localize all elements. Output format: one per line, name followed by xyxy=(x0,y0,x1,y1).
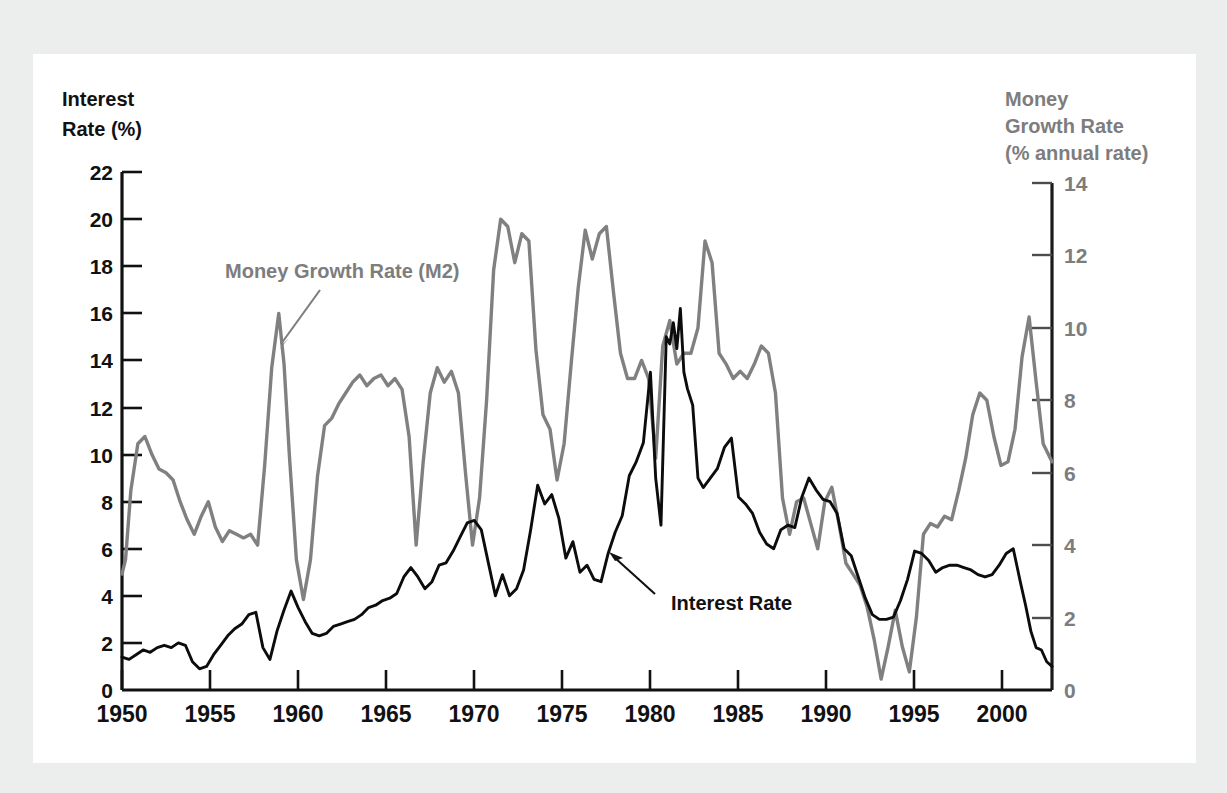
series-money-growth-rate xyxy=(122,219,1052,679)
xtick-1990: 1990 xyxy=(800,701,851,727)
chart-svg: Interest Rate (%) Money Growth Rate (% a… xyxy=(0,0,1227,793)
xtick-1980: 1980 xyxy=(624,701,675,727)
ytick-left-20: 20 xyxy=(90,208,113,231)
ytick-right-10: 10 xyxy=(1064,317,1087,340)
left-axis-tick-labels: 22 20 18 16 14 12 10 8 6 4 2 0 xyxy=(90,161,114,702)
ytick-right-12: 12 xyxy=(1064,244,1087,267)
ytick-left-0: 0 xyxy=(101,679,113,702)
ytick-left-14: 14 xyxy=(90,349,114,372)
ytick-right-0: 0 xyxy=(1064,679,1076,702)
x-axis-tick-labels: 1950 1955 1960 1965 1970 1975 1980 1985 … xyxy=(96,701,1027,727)
left-axis-title-line1: Interest xyxy=(62,88,135,110)
ytick-right-14: 14 xyxy=(1064,172,1088,195)
right-axis-title-line3: (% annual rate) xyxy=(1005,142,1148,164)
xtick-1975: 1975 xyxy=(536,701,587,727)
ytick-right-2: 2 xyxy=(1064,607,1076,630)
right-axis-title-line1: Money xyxy=(1005,88,1069,110)
annotation-interest-rate-label: Interest Rate xyxy=(671,592,792,614)
left-axis-ticks xyxy=(122,172,142,643)
xtick-1960: 1960 xyxy=(272,701,323,727)
ytick-left-22: 22 xyxy=(90,161,113,184)
ytick-left-18: 18 xyxy=(90,255,114,278)
xtick-1995: 1995 xyxy=(888,701,939,727)
figure-container: Interest Rate (%) Money Growth Rate (% a… xyxy=(0,0,1227,793)
xtick-1950: 1950 xyxy=(96,701,147,727)
ytick-right-8: 8 xyxy=(1064,389,1076,412)
xtick-2000: 2000 xyxy=(976,701,1027,727)
right-axis-title-line2: Growth Rate xyxy=(1005,115,1124,137)
right-axis-ticks xyxy=(1032,183,1052,618)
ytick-left-16: 16 xyxy=(90,302,113,325)
annotation-money-arrow-line xyxy=(281,290,320,344)
xtick-1970: 1970 xyxy=(448,701,499,727)
left-axis-title-line2: Rate (%) xyxy=(62,118,142,140)
annotation-interest-arrow-head xyxy=(609,552,623,561)
ytick-right-6: 6 xyxy=(1064,462,1076,485)
ytick-left-12: 12 xyxy=(90,397,113,420)
x-axis-ticks xyxy=(122,670,1002,690)
xtick-1965: 1965 xyxy=(360,701,411,727)
ytick-left-6: 6 xyxy=(101,538,113,561)
xtick-1985: 1985 xyxy=(712,701,763,727)
ytick-left-8: 8 xyxy=(101,491,113,514)
annotation-money-growth-label: Money Growth Rate (M2) xyxy=(225,260,459,282)
ytick-left-10: 10 xyxy=(90,444,113,467)
ytick-left-4: 4 xyxy=(101,585,113,608)
ytick-left-2: 2 xyxy=(101,632,113,655)
ytick-right-4: 4 xyxy=(1064,534,1076,557)
annotation-interest-arrow-line xyxy=(614,557,655,594)
right-axis-tick-labels: 14 12 10 8 4 6 2 0 xyxy=(1064,172,1088,702)
xtick-1955: 1955 xyxy=(184,701,235,727)
